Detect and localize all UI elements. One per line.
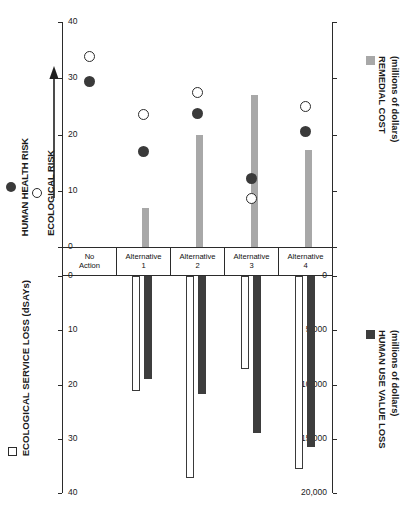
axis-tick	[58, 493, 62, 494]
human-health-risk-marker	[246, 173, 257, 184]
lower-column-3	[225, 276, 279, 493]
upper-right-legend: REMEDIAL COST (millions of dollars)	[366, 56, 400, 142]
upper-plot-area: 010203040	[62, 22, 333, 247]
lower-column-4	[279, 276, 333, 493]
remedial-cost-bar	[196, 135, 203, 248]
upper-column-4	[279, 22, 333, 247]
ecological-service-loss-bar	[186, 276, 194, 478]
axis-tick	[333, 247, 337, 248]
legend-label-human-use-value-loss-units: (millions of dollars)	[389, 330, 399, 449]
upper-column-1	[116, 22, 170, 247]
ecological-service-loss-bar	[132, 276, 140, 391]
ecological-risk-marker	[138, 109, 149, 120]
legend-label-ecological-service-loss: ECOLOGICAL SERVICE LOSS (dSAYs)	[20, 280, 31, 456]
ecological-service-loss-bar	[241, 276, 249, 369]
remedial-cost-bar	[142, 208, 149, 247]
legend-label-human-use-value-loss: HUMAN USE VALUE LOSS	[377, 330, 387, 449]
category-cell-1: Alternative1	[117, 248, 171, 275]
human-health-risk-marker	[138, 146, 149, 157]
axis-tick	[333, 191, 337, 192]
axis-tick	[333, 78, 337, 79]
category-label-line: 2	[195, 262, 199, 271]
legend-item-human-health-risk: HUMAN HEALTH RISK	[6, 138, 30, 236]
ecological-service-loss-bar	[295, 276, 303, 469]
axis-tick	[333, 493, 337, 494]
open-square-icon	[8, 447, 17, 456]
remedial-cost-bar	[251, 95, 258, 247]
ecological-risk-marker	[300, 101, 311, 112]
legend-label-remedial-cost: REMEDIAL COST	[377, 56, 387, 142]
lower-right-legend: HUMAN USE VALUE LOSS (millions of dollar…	[366, 330, 400, 449]
dark-square-icon	[366, 330, 375, 339]
lower-column-1	[116, 276, 170, 493]
legend-label-remedial-cost-units: (millions of dollars)	[389, 56, 399, 142]
lower-left-legend: ECOLOGICAL SERVICE LOSS (dSAYs)	[8, 280, 31, 456]
human-health-risk-marker	[84, 76, 95, 87]
ecological-risk-marker	[84, 51, 95, 62]
axis-tick	[333, 135, 337, 136]
human-use-value-loss-bar	[198, 276, 206, 394]
upper-column-0	[62, 22, 116, 247]
human-health-risk-marker	[192, 108, 203, 119]
category-cell-3: Alternative3	[225, 248, 279, 275]
ecological-risk-marker	[192, 87, 203, 98]
category-cell-2: Alternative2	[171, 248, 225, 275]
remedial-cost-bar	[305, 150, 312, 247]
axis-tick	[333, 276, 337, 277]
human-health-risk-marker	[300, 126, 311, 137]
upper-column-3	[225, 22, 279, 247]
axis-tick	[333, 439, 337, 440]
upper-column-2	[170, 22, 224, 247]
open-circle-icon	[32, 188, 42, 198]
legend-label-human-health-risk: HUMAN HEALTH RISK	[19, 138, 30, 236]
human-use-value-loss-bar	[144, 276, 152, 379]
human-use-value-loss-bar	[307, 276, 315, 447]
category-label-line: 3	[249, 262, 253, 271]
lower-plot-area: 05,00010,00015,00020,000 010203040	[62, 276, 333, 493]
human-use-value-loss-bar	[253, 276, 261, 433]
category-label-line: 4	[303, 262, 307, 271]
lower-column-0	[62, 276, 116, 493]
filled-circle-icon	[6, 182, 16, 192]
increasing-risk-arrow-icon	[49, 66, 59, 198]
grey-square-icon	[366, 56, 375, 65]
axis-tick	[333, 22, 337, 23]
lower-column-2	[170, 276, 224, 493]
category-label-line: 1	[141, 262, 145, 271]
category-label-line: Action	[79, 262, 100, 271]
axis-tick	[333, 330, 337, 331]
axis-tick	[333, 385, 337, 386]
